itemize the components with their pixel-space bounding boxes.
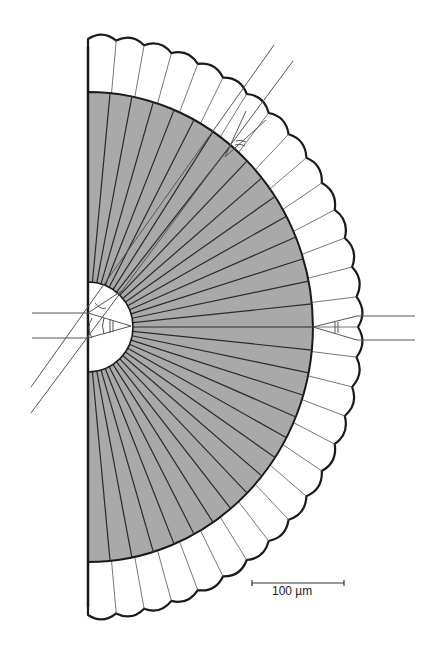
fan-diagram [0,0,445,648]
scale-bar-label: 100 µm [272,584,312,598]
